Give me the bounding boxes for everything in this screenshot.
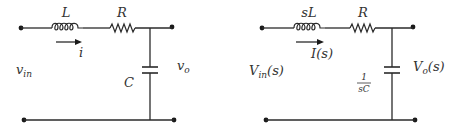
- s-output-voltage-label: Vo(s): [413, 59, 445, 76]
- current-label: i: [79, 45, 83, 60]
- right-circuit: sL R I(s) 1 sC Vin(s) Vo(s): [249, 5, 445, 122]
- resistor-symbol: [110, 24, 135, 32]
- left-circuit: L R i C vin vo: [16, 5, 190, 122]
- inductor-label: L: [61, 5, 71, 20]
- input-voltage-label: vin: [16, 62, 32, 79]
- capacitor-label: C: [124, 75, 134, 90]
- s-current-arrow-head-icon: [317, 39, 324, 45]
- input-voltage-sub: in: [23, 69, 32, 79]
- s-inductor-symbol: [294, 23, 325, 30]
- s-input-voltage-label: Vin(s): [249, 63, 284, 80]
- s-output-terminal-top: [411, 25, 416, 30]
- s-resistor-label: R: [357, 5, 368, 20]
- output-terminal-top: [170, 25, 175, 30]
- inductor-symbol: [52, 23, 83, 30]
- s-capacitor-numerator: 1: [361, 72, 367, 82]
- s-capacitor-impedance-label: 1 sC: [357, 72, 371, 94]
- s-resistor-symbol: [350, 24, 375, 32]
- s-capacitor-denominator: sC: [358, 84, 370, 94]
- s-current-label: I(s): [310, 46, 333, 61]
- s-inductor-label: sL: [301, 5, 316, 20]
- output-voltage-sub: o: [184, 65, 190, 75]
- s-input-voltage-tail: (s): [267, 63, 284, 78]
- s-output-voltage-tail: (s): [428, 59, 445, 74]
- s-input-voltage-sub: in: [258, 70, 267, 80]
- output-voltage-label: vo: [177, 58, 190, 75]
- resistor-label: R: [116, 5, 127, 20]
